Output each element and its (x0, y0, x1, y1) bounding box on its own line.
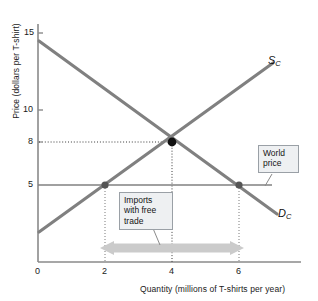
marker-domestic-quantity-supplied (101, 181, 108, 188)
x-tick-label-2: 2 (102, 266, 107, 276)
world-price-callout-line-1: World (263, 148, 295, 158)
demand-curve-label-text: D (278, 207, 286, 219)
imports-callout-line-2: with free (124, 205, 169, 215)
demand-curve-label-subscript: C (286, 212, 291, 221)
y-axis-title: Price (dollars per T-shirt) (11, 11, 21, 131)
marker-domestic-quantity-demanded (235, 181, 242, 188)
x-axis-title: Quantity (millions of T-shirts per year) (140, 284, 285, 294)
marker-equilibrium-no-trade (168, 138, 177, 147)
imports-callout-line-1: Imports (124, 195, 169, 205)
imports-callout-line-3: trade (124, 216, 169, 226)
supply-curve-label-subscript: C (275, 59, 280, 68)
chart-figure: 15 10 8 5 0 2 4 6 Price (dollars per T-s… (0, 0, 318, 301)
imports-callout: Imports with free trade (119, 192, 173, 230)
world-price-callout-line-2: price (263, 158, 295, 168)
y-tick-label-10: 10 (23, 104, 33, 114)
y-tick-label-5: 5 (28, 179, 33, 189)
x-tick-label-0: 0 (35, 266, 40, 276)
demand-curve-label: DC (278, 207, 291, 221)
x-tick-label-4: 4 (169, 266, 174, 276)
x-tick-label-6: 6 (236, 266, 241, 276)
demand-curve (39, 41, 277, 214)
world-price-callout: World price (258, 145, 299, 173)
supply-curve-label: SC (268, 54, 281, 68)
y-tick-label-8: 8 (28, 136, 33, 146)
y-tick-label-15: 15 (24, 27, 34, 37)
